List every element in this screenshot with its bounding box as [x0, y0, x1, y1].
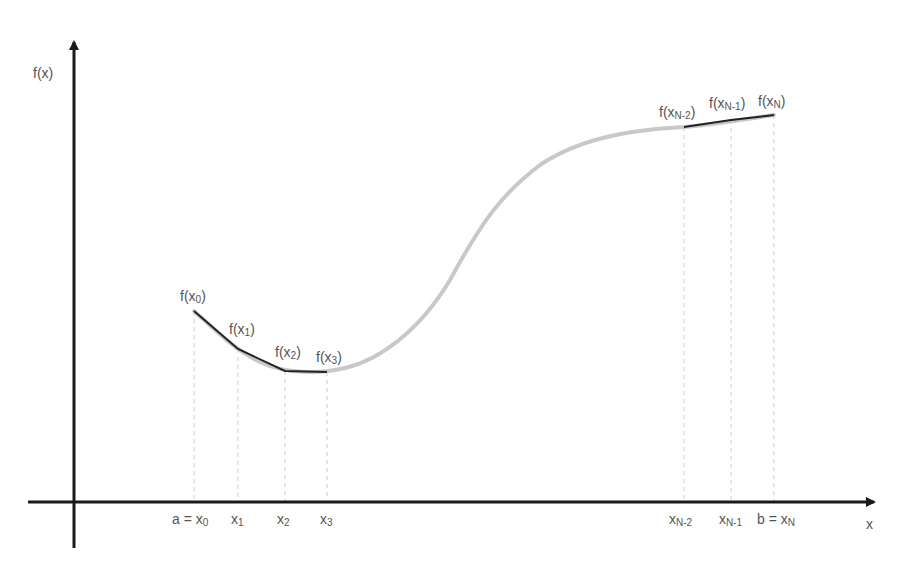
label-f-xN-1: f(xN-1) [709, 95, 745, 112]
label-x3: x3 [320, 511, 333, 528]
label-f-x1: f(x1) [229, 321, 255, 338]
y-axis-label: f(x) [33, 65, 53, 81]
label-x1: x1 [231, 511, 244, 528]
x-axis-label: x [866, 516, 873, 532]
label-f-xN: f(xN) [758, 93, 785, 110]
linear-segments [194, 115, 774, 372]
function-curve [194, 115, 774, 372]
label-xN: b = xN [757, 511, 795, 528]
label-f-xN-2: f(xN-2) [659, 104, 695, 121]
function-approximation-diagram: f(x) x f(x0) f(x1) f(x2) f(x3) f(xN-2) f… [0, 0, 906, 572]
label-xN-1: xN-1 [719, 511, 743, 528]
vertical-guides [194, 115, 774, 502]
label-x2: x2 [277, 511, 290, 528]
label-f-x0: f(x0) [180, 288, 206, 305]
segments-right [684, 115, 774, 127]
label-f-x3: f(x3) [316, 349, 342, 366]
label-xN-2: xN-2 [669, 511, 693, 528]
label-x0: a = x0 [172, 511, 209, 528]
label-f-x2: f(x2) [275, 344, 301, 361]
